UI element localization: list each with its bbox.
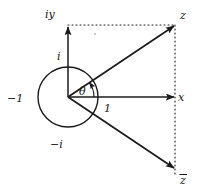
label-minus-i-point: −i xyxy=(50,138,63,151)
label-z-point: z xyxy=(179,9,186,22)
label-imaginary-axis: iy xyxy=(45,8,56,21)
label-real-axis: x xyxy=(178,91,185,104)
label-z-conjugate-point: z xyxy=(179,174,186,187)
speck-artifact xyxy=(94,33,96,35)
ray-to-z-conjugate xyxy=(68,97,174,168)
label-i-point: i xyxy=(57,50,61,63)
label-one-point: 1 xyxy=(104,102,111,115)
complex-plane-svg: iy x i −i −1 1 θ z z xyxy=(0,0,200,190)
label-minus-one-point: −1 xyxy=(7,92,23,105)
complex-plane-figure: iy x i −i −1 1 θ z z xyxy=(0,0,200,190)
label-angle-theta: θ xyxy=(79,85,86,98)
theta-arc xyxy=(90,83,95,98)
